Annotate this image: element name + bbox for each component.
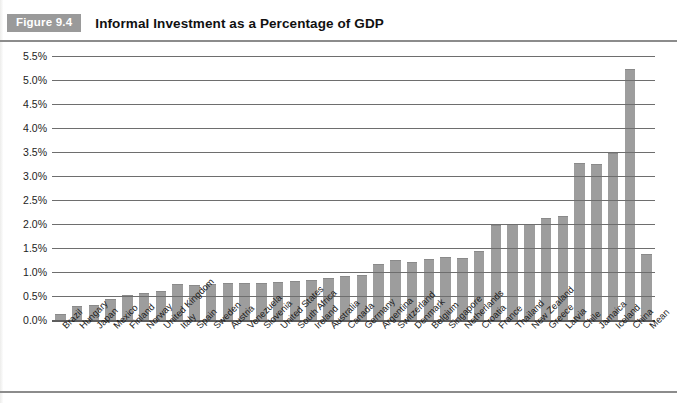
y-axis-tick-label: 1.0% xyxy=(23,266,47,278)
header-divider xyxy=(0,40,677,42)
y-axis-tick-label: 0.5% xyxy=(23,290,47,302)
bar-slot xyxy=(153,56,170,320)
bar-slot xyxy=(387,56,404,320)
bar-slot xyxy=(454,56,471,320)
gridline xyxy=(52,272,655,273)
bar-slot xyxy=(521,56,538,320)
y-axis-tick-label: 2.0% xyxy=(23,218,47,230)
y-axis-tick-label: 2.5% xyxy=(23,194,47,206)
y-axis-tick-label: 4.5% xyxy=(23,98,47,110)
figure-number-badge: Figure 9.4 xyxy=(7,14,81,33)
gridline xyxy=(52,248,655,249)
bar-slot xyxy=(354,56,371,320)
y-axis-tick-label: 3.5% xyxy=(23,146,47,158)
gridline xyxy=(52,104,655,105)
footer-divider xyxy=(0,391,677,393)
bar-slot xyxy=(270,56,287,320)
bar-slot xyxy=(69,56,86,320)
bar-slot xyxy=(287,56,304,320)
bar-slot xyxy=(504,56,521,320)
bar-slot xyxy=(136,56,153,320)
bar-slot xyxy=(588,56,605,320)
y-axis-tick-label: 5.5% xyxy=(23,50,47,62)
bar-slot xyxy=(638,56,655,320)
gridline xyxy=(52,200,655,201)
bar-slot xyxy=(555,56,572,320)
figure-title: Informal Investment as a Percentage of G… xyxy=(95,16,384,31)
plot-area: 5.5%5.0%4.5%4.0%3.5%3.0%2.5%2.0%1.5%1.0%… xyxy=(52,56,655,320)
bar-slot xyxy=(253,56,270,320)
bar-slot xyxy=(488,56,505,320)
bar xyxy=(608,153,618,320)
gridline xyxy=(52,224,655,225)
y-axis-tick-label: 0.0% xyxy=(23,314,47,326)
gridline xyxy=(52,80,655,81)
bar-slot xyxy=(571,56,588,320)
gridline xyxy=(52,152,655,153)
gridline xyxy=(52,128,655,129)
bar-slot xyxy=(303,56,320,320)
bar-slot xyxy=(605,56,622,320)
bar-slot xyxy=(320,56,337,320)
bar-slot xyxy=(421,56,438,320)
bar-slot xyxy=(119,56,136,320)
bar-slot xyxy=(337,56,354,320)
bar-slot xyxy=(52,56,69,320)
bar-slot xyxy=(370,56,387,320)
bar-series xyxy=(52,56,655,320)
bar-slot xyxy=(169,56,186,320)
bar xyxy=(625,69,635,320)
y-axis-tick-label: 4.0% xyxy=(23,122,47,134)
bar-slot xyxy=(102,56,119,320)
y-axis-tick-label: 1.5% xyxy=(23,242,47,254)
gridline xyxy=(52,56,655,57)
bar-slot xyxy=(622,56,639,320)
bar-slot xyxy=(437,56,454,320)
bar-slot xyxy=(236,56,253,320)
bar-chart: 5.5%5.0%4.5%4.0%3.5%3.0%2.5%2.0%1.5%1.0%… xyxy=(0,44,677,344)
bar-slot xyxy=(538,56,555,320)
gridline xyxy=(52,176,655,177)
bar-slot xyxy=(186,56,203,320)
y-axis-tick-label: 5.0% xyxy=(23,74,47,86)
bar-slot xyxy=(220,56,237,320)
bar-slot xyxy=(86,56,103,320)
figure-header: Figure 9.4 Informal Investment as a Perc… xyxy=(0,10,677,36)
y-axis-tick-label: 3.0% xyxy=(23,170,47,182)
bar-slot xyxy=(471,56,488,320)
bar-slot xyxy=(404,56,421,320)
